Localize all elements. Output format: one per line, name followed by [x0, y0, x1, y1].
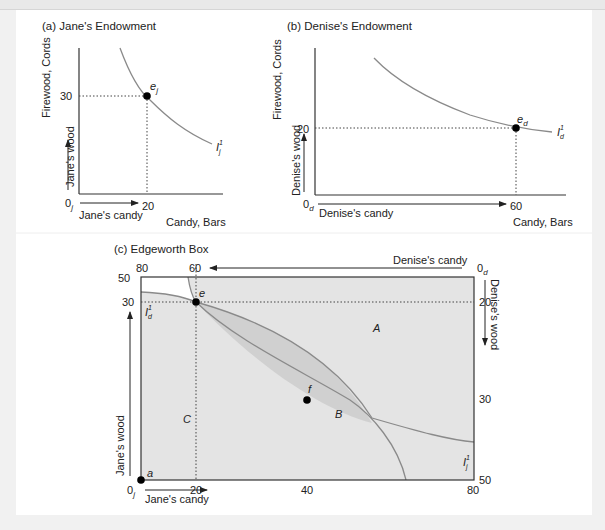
- panel-b-x-label: Candy, Bars: [513, 216, 573, 228]
- box-left-tick-50: 50: [118, 272, 130, 284]
- box-top-tick-80: 80: [136, 262, 148, 274]
- box-right-tick-50: 50: [479, 474, 491, 486]
- panel-a-title: (a) Jane's Endowment: [42, 20, 157, 32]
- box-top-tick-60: 60: [189, 262, 201, 274]
- panel-b-y-label: Firewood, Cords: [271, 39, 283, 120]
- panel-b-denises-endowment: (b) Denise's Endowment Firewood, Cords D…: [271, 20, 573, 228]
- allocation-point-a: [137, 476, 145, 484]
- edgeworth-figure: (a) Jane's Endowment Firewood, Cords Jan…: [0, 0, 605, 530]
- region-a-label: A: [372, 322, 380, 334]
- panel-a-curve-label: I1j: [216, 139, 223, 156]
- panel-a-janes-endowment: (a) Jane's Endowment Firewood, Cords Jan…: [40, 20, 226, 228]
- panel-c-edgeworth-box: (c) Edgeworth Box 80 60 Denise's candy 0…: [114, 243, 501, 505]
- panel-b-title: (b) Denise's Endowment: [287, 20, 413, 32]
- box-bottom-origin: 0j: [127, 484, 135, 499]
- box-right-tick-20: 20: [479, 296, 491, 308]
- panel-b-y-tick: 20: [297, 123, 309, 135]
- box-right-arrow-label: Denise's wood: [489, 279, 501, 350]
- panel-b-curve-label: I1d: [557, 124, 565, 140]
- box-bottom-tick-80: 80: [467, 484, 479, 496]
- panel-a-y-tick: 30: [60, 90, 72, 102]
- panel-a-x-tick: 20: [142, 200, 154, 212]
- region-b-label: B: [335, 408, 342, 420]
- panel-a-point-label: ej: [150, 80, 158, 95]
- region-c-label: C: [183, 413, 191, 425]
- panel-a-y-arrow-label: Jane's wood: [64, 126, 76, 187]
- box-top-right-origin: 0d: [477, 262, 488, 277]
- panel-a-x-label: Candy, Bars: [166, 216, 226, 228]
- panel-b-y-arrow-label: Denise's wood: [290, 125, 302, 196]
- endowment-point-e: [192, 298, 200, 306]
- panel-b-endowment-point: [512, 124, 520, 132]
- point-e-label: e: [199, 287, 205, 299]
- panel-c-title: (c) Edgeworth Box: [114, 243, 209, 255]
- box-bottom-tick-20: 20: [190, 484, 202, 496]
- panel-b-x-arrow-label: Denise's candy: [319, 207, 394, 219]
- box-right-tick-30: 30: [479, 393, 491, 405]
- panel-a-origin: 0j: [65, 197, 73, 212]
- box-bottom-tick-40: 40: [301, 484, 313, 496]
- panel-a-endowment-point: [143, 92, 151, 100]
- box-top-arrow-label: Denise's candy: [393, 254, 468, 266]
- panel-a-y-label: Firewood, Cords: [40, 37, 52, 118]
- panel-a-x-arrow-label: Jane's candy: [79, 209, 143, 221]
- panel-b-x-tick: 60: [510, 200, 522, 212]
- allocation-point-f: [303, 396, 311, 404]
- point-a-label: a: [147, 467, 153, 479]
- box-left-tick-30: 30: [122, 296, 134, 308]
- panel-a-indifference-curve: [120, 48, 212, 144]
- panel-b-origin: 0d: [303, 198, 314, 213]
- box-left-arrow-label: Jane's wood: [114, 415, 126, 476]
